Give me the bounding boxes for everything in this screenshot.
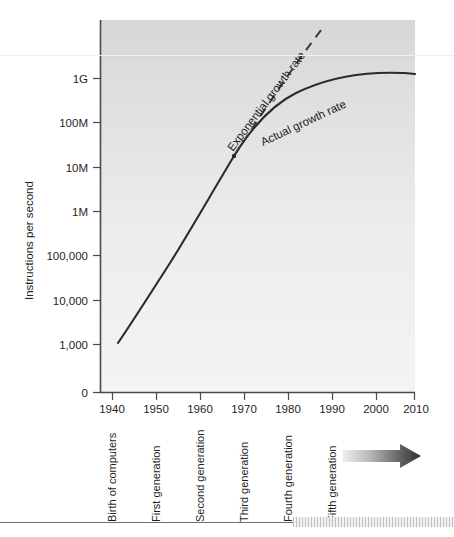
x-tick-label-1980: 1980 [275, 403, 301, 415]
x-tick-label-2000: 2000 [363, 403, 389, 415]
chart-canvas: 1G 100M 10M 1M 100,000 10,000 1,000 0 In… [0, 0, 454, 537]
y-tick-label-1g: 1G [73, 73, 88, 85]
category-label-first-generation: First generation [150, 446, 162, 522]
category-label-second-generation: Second generation [194, 430, 206, 522]
timeline-arrow-icon [342, 444, 421, 468]
category-label-fifth-generation: Fifth generation [326, 446, 338, 522]
x-tick-label-1940: 1940 [99, 403, 125, 415]
x-tick-label-1950: 1950 [143, 403, 169, 415]
scan-seam-line [0, 55, 454, 56]
plot-background [100, 20, 415, 393]
y-axis-title: Instructions per second [23, 181, 35, 300]
growth-rate-chart-figure: 1G 100M 10M 1M 100,000 10,000 1,000 0 In… [0, 0, 454, 537]
branch-point-marker [232, 154, 236, 158]
category-label-birth-of-computers: Birth of computers [106, 432, 118, 522]
y-tick-label-10m: 10M [66, 162, 88, 174]
category-label-fourth-generation: Fourth generation [282, 435, 294, 522]
x-tick-label-1990: 1990 [319, 403, 345, 415]
x-tick-label-1960: 1960 [187, 403, 213, 415]
bottom-texture-strip [293, 517, 454, 527]
y-tick-label-0: 0 [82, 387, 88, 399]
y-tick-label-1m: 1M [72, 206, 88, 218]
category-label-third-generation: Third generation [238, 442, 250, 522]
y-tick-label-1000: 1,000 [59, 339, 88, 351]
y-tick-label-100000: 100,000 [46, 250, 88, 262]
x-tick-label-1970: 1970 [231, 403, 257, 415]
bottom-rule-line [0, 522, 300, 523]
y-tick-label-100m: 100M [59, 117, 88, 129]
x-tick-label-2010: 2010 [403, 403, 429, 415]
y-tick-label-10000: 10,000 [53, 295, 88, 307]
